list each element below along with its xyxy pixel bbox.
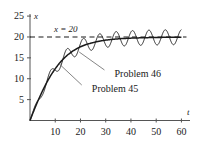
curve-label-problem-45: Problem 45 — [92, 84, 138, 94]
leader-line-problem-45 — [59, 64, 82, 85]
x-tick-label: 10 — [41, 127, 69, 137]
curve-label-problem-46: Problem 46 — [115, 69, 161, 79]
y-tick-label: 20 — [0, 32, 24, 42]
curve-problem-45 — [30, 37, 181, 120]
x-tick-label: 60 — [167, 127, 195, 137]
leader-line-problem-46 — [79, 52, 104, 70]
y-axis-label: x — [34, 12, 38, 21]
x-tick-label: 20 — [66, 127, 94, 137]
equilibrium-line-label: x = 20 — [54, 25, 78, 34]
y-tick-label: 5 — [0, 95, 24, 105]
figure-chart-problems-45-46: 510152025 102030405060 x t x = 20 Proble… — [0, 0, 200, 141]
y-tick-label: 15 — [0, 53, 24, 63]
y-tick-label: 25 — [0, 11, 24, 21]
x-tick-label: 50 — [142, 127, 170, 137]
x-tick-label: 40 — [117, 127, 145, 137]
x-axis-label: t — [187, 108, 190, 117]
x-tick-label: 30 — [92, 127, 120, 137]
chart-plot-area — [0, 0, 200, 141]
y-tick-label: 10 — [0, 74, 24, 84]
